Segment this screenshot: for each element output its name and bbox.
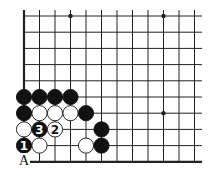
black-stone: [78, 106, 93, 121]
white-stone: [47, 106, 62, 121]
black-stone: [16, 89, 31, 104]
black-stone: [94, 122, 109, 137]
black-stone: [32, 89, 47, 104]
star-point: [161, 14, 165, 18]
black-stone: 1: [16, 138, 31, 153]
black-stone: [16, 106, 31, 121]
stones: 321: [16, 89, 109, 153]
black-stone: [47, 89, 62, 104]
white-stone: [32, 106, 47, 121]
point-label: A: [18, 153, 30, 169]
white-stone: [63, 106, 78, 121]
move-number: 3: [35, 123, 43, 137]
white-stone: [32, 138, 47, 153]
black-stone: [94, 138, 109, 153]
star-point: [68, 14, 72, 18]
star-point: [161, 111, 165, 115]
black-stone: 3: [32, 122, 47, 137]
grid-lines: [24, 10, 202, 162]
black-stone: [63, 89, 78, 104]
white-stone: [16, 122, 31, 137]
white-stone: 2: [47, 122, 62, 137]
move-number: 2: [51, 123, 59, 137]
white-stone: [78, 138, 93, 153]
go-board: 321: [0, 0, 217, 179]
move-number: 1: [20, 139, 28, 153]
